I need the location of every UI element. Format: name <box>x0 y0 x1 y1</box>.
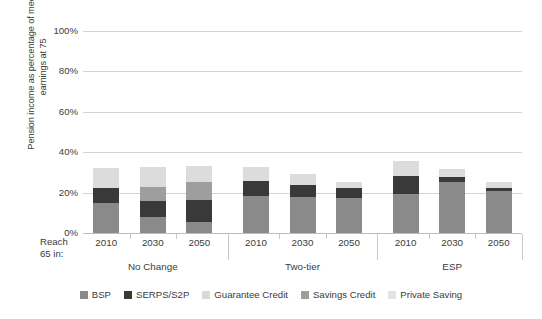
legend-label: Private Saving <box>400 289 462 300</box>
bar-5 <box>336 182 362 233</box>
bar-segment-serps-s2p <box>140 201 166 217</box>
legend-item-bsp[interactable]: BSP <box>80 289 111 300</box>
reach-label-line1: Reach <box>40 236 84 248</box>
bar-3 <box>243 167 269 233</box>
y-tick-label-40: 40% <box>34 146 78 157</box>
group-label-no-change: No Change <box>83 261 223 272</box>
group-separator-1 <box>228 234 229 260</box>
legend-item-serps-s2p[interactable]: SERPS/S2P <box>124 289 189 300</box>
bar-segment-bsp <box>290 197 316 233</box>
bar-4 <box>290 174 316 233</box>
legend-swatch-icon <box>301 291 309 299</box>
group-separator-2 <box>377 234 378 260</box>
group-label-esp: ESP <box>382 261 522 272</box>
bar-segment-bsp <box>393 194 419 233</box>
y-tick-label-20: 20% <box>34 187 78 198</box>
bar-segment-private-saving <box>393 161 419 176</box>
y-tick-label-60: 60% <box>34 106 78 117</box>
bar-7 <box>439 169 465 233</box>
group-label-two-tier: Two-tier <box>233 261 373 272</box>
bar-segment-private-saving <box>290 174 316 184</box>
bar-segment-serps-s2p <box>290 185 316 197</box>
bar-segment-bsp <box>93 203 119 233</box>
x-tick-label-4: 2030 <box>278 237 328 248</box>
chart-container: Pension income as percentage of median e… <box>0 0 542 319</box>
x-tick-label-0: 2010 <box>81 237 131 248</box>
x-axis-line <box>83 233 522 234</box>
legend-swatch-icon <box>202 291 210 299</box>
bar-segment-serps-s2p <box>93 188 119 203</box>
bar-segment-bsp <box>186 222 212 233</box>
x-tick-label-5: 2050 <box>324 237 374 248</box>
bar-series-layer <box>83 31 522 233</box>
x-tick-label-2: 2050 <box>174 237 224 248</box>
bar-segment-savings-credit <box>140 187 166 201</box>
reach-65-label: Reach 65 in: <box>40 236 84 259</box>
bar-segment-bsp <box>336 198 362 233</box>
x-tick-label-6: 2010 <box>381 237 431 248</box>
bar-segment-serps-s2p <box>186 200 212 222</box>
legend-label: BSP <box>92 289 111 300</box>
legend-swatch-icon <box>80 291 88 299</box>
y-tick-label-80: 80% <box>34 65 78 76</box>
bar-segment-savings-credit <box>186 182 212 200</box>
bar-0 <box>93 168 119 233</box>
bar-segment-bsp <box>243 196 269 233</box>
bar-segment-bsp <box>140 217 166 233</box>
legend-label: Guarantee Credit <box>214 289 288 300</box>
bar-2 <box>186 166 212 233</box>
legend-swatch-icon <box>388 291 396 299</box>
bar-8 <box>486 182 512 233</box>
bar-segment-serps-s2p <box>243 181 269 196</box>
x-tick-label-1: 2030 <box>128 237 178 248</box>
legend-item-savings-credit[interactable]: Savings Credit <box>301 289 375 300</box>
bar-segment-bsp <box>486 191 512 233</box>
legend-item-guarantee-credit[interactable]: Guarantee Credit <box>202 289 288 300</box>
bar-segment-serps-s2p <box>336 188 362 198</box>
bar-1 <box>140 167 166 233</box>
legend-swatch-icon <box>124 291 132 299</box>
bar-segment-bsp <box>439 182 465 234</box>
y-tick-label-100: 100% <box>34 25 78 36</box>
bar-segment-private-saving <box>243 167 269 180</box>
x-tick-label-8: 2050 <box>474 237 524 248</box>
bar-segment-private-saving <box>93 168 119 187</box>
x-tick-label-7: 2030 <box>427 237 477 248</box>
reach-label-line2: 65 in: <box>40 248 84 260</box>
chart-legend: BSPSERPS/S2PGuarantee CreditSavings Cred… <box>0 289 542 300</box>
x-tick-label-3: 2010 <box>231 237 281 248</box>
legend-item-private-saving[interactable]: Private Saving <box>388 289 462 300</box>
bar-segment-private-saving <box>186 166 212 181</box>
bar-segment-private-saving <box>140 167 166 186</box>
bar-segment-serps-s2p <box>393 176 419 193</box>
bar-segment-private-saving <box>439 169 465 177</box>
legend-label: Savings Credit <box>313 289 375 300</box>
bar-6 <box>393 161 419 233</box>
legend-label: SERPS/S2P <box>136 289 189 300</box>
